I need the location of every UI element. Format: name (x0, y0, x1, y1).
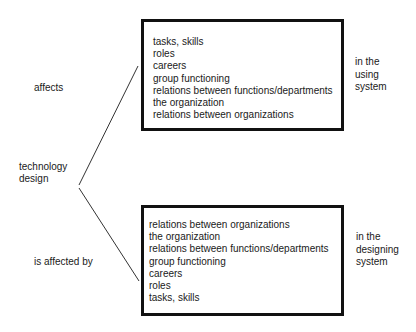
list-item: the organization (149, 231, 329, 243)
side-label-line: system (356, 256, 399, 269)
label-is-affected-by: is affected by (34, 256, 93, 268)
side-label-line: in the (356, 231, 399, 244)
list-item: roles (149, 280, 329, 292)
designing-system-box: relations between organizations the orga… (141, 205, 344, 316)
list-item: roles (153, 48, 333, 60)
list-item: careers (149, 268, 329, 280)
list-item: careers (153, 60, 333, 72)
list-item: relations between organizations (149, 219, 329, 231)
using-system-box: tasks, skills roles careers group functi… (141, 19, 344, 131)
list-item: group functioning (149, 256, 329, 268)
using-system-list: tasks, skills roles careers group functi… (153, 36, 333, 121)
list-item: relations between organizations (153, 109, 333, 121)
list-item: relations between functions/departments (153, 85, 333, 97)
label-technology: technology (19, 161, 67, 173)
label-in-the-designing-system: in the designing system (356, 231, 399, 269)
list-item: group functioning (153, 73, 333, 85)
label-in-the-using-system: in the using system (355, 56, 387, 94)
side-label-line: using (355, 69, 387, 82)
label-design: design (19, 173, 67, 185)
list-item: relations between functions/departments (149, 243, 329, 255)
list-item: the organization (153, 97, 333, 109)
list-item: tasks, skills (149, 292, 329, 304)
list-item: tasks, skills (153, 36, 333, 48)
label-technology-design: technology design (19, 161, 67, 185)
designing-system-list: relations between organizations the orga… (149, 219, 329, 304)
side-label-line: in the (355, 56, 387, 69)
connector-line-up (79, 66, 138, 185)
side-label-line: system (355, 81, 387, 94)
label-affects: affects (34, 82, 63, 94)
side-label-line: designing (356, 244, 399, 257)
